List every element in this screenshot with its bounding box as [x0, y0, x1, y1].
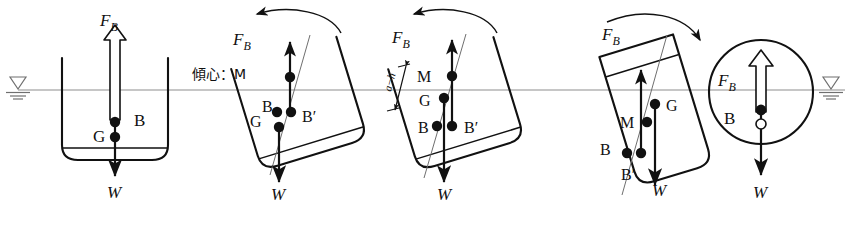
label-metacenter-jp-2: 傾心：M [192, 66, 246, 82]
label-FB-3: FB [391, 28, 410, 51]
hull-bottom-line-2 [260, 127, 363, 159]
label-G-2: G [250, 113, 262, 130]
hull-outline-2 [231, 37, 367, 171]
hull-deck-line-4 [606, 55, 678, 77]
label-B-4: B [600, 141, 611, 158]
label-W-1: W [107, 183, 123, 202]
label-B-1: B [134, 111, 145, 130]
point-G-4 [650, 99, 660, 109]
point-B-1 [110, 117, 120, 127]
label-B-prime-2: B′ [302, 108, 316, 125]
label-FB-4: FB [601, 25, 620, 48]
label-W-2: W [271, 185, 287, 204]
rotation-arrow-cw-4 [607, 14, 700, 40]
point-M-2 [285, 72, 295, 82]
point-B-prime-3 [447, 121, 457, 131]
label-B-prime-3: B′ [464, 119, 478, 136]
panel-5-circular: FB B W [709, 40, 813, 202]
point-B-5 [756, 105, 767, 116]
point-M-4 [642, 117, 652, 127]
point-B-prime-4 [636, 148, 646, 158]
gm-dimension-3: a−h [381, 64, 410, 111]
ship-stability-figure: FB B G W [0, 0, 862, 230]
point-B-2 [272, 107, 282, 117]
label-G-3: G [419, 92, 431, 109]
water-level-symbol-left [6, 77, 30, 99]
label-FB-1: FB [99, 11, 118, 34]
label-FB-2: FB [232, 30, 251, 53]
label-W-3: W [437, 185, 453, 204]
label-B-3: B [418, 119, 429, 136]
point-B-4 [622, 148, 632, 158]
figure-canvas: FB B G W [0, 0, 862, 230]
point-G-2 [274, 122, 284, 132]
point-G-3 [439, 93, 449, 103]
label-B-2: B [262, 98, 273, 115]
label-W-4: W [652, 181, 668, 200]
panel-2-tilted-stable: FB 傾心：M B B′ G W [192, 10, 367, 204]
rotation-arrow-ccw-2 [257, 10, 341, 33]
hull-outline-3 [388, 37, 524, 171]
panel-4-tilted-unstable: FB G M B B′ W [599, 14, 712, 200]
panel-1-upright: FB B G W [62, 11, 168, 202]
point-G-1 [110, 132, 120, 142]
point-G-5 [756, 119, 766, 129]
point-M-3 [447, 71, 457, 81]
label-G-4: G [666, 97, 678, 114]
buoyancy-arrow-1 [104, 25, 126, 120]
point-B-prime-2 [286, 107, 296, 117]
figure-caption-partial [0, 219, 862, 230]
panel-3-tilted-stable-gm: a−h FB M G B B′ W [381, 10, 524, 204]
buoyancy-arrow-5 [749, 50, 773, 112]
label-G-1: G [93, 127, 105, 146]
water-level-symbol-right [819, 77, 843, 99]
label-M-4: M [620, 114, 634, 131]
label-M-3: M [417, 68, 431, 85]
label-B-prime-4: B′ [621, 166, 635, 183]
point-B-3 [432, 121, 442, 131]
rotation-arrow-ccw-3 [414, 10, 497, 33]
label-W-5: W [753, 183, 769, 202]
label-B-5: B [724, 109, 735, 128]
